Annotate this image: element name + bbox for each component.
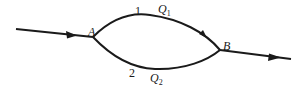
branch-2-flow-label: Q2 xyxy=(150,72,163,87)
flow-subscript: 1 xyxy=(167,9,171,18)
branch-1-flow-label: Q1 xyxy=(158,3,171,18)
branch-2-pipe xyxy=(93,37,220,69)
node-a-label: A xyxy=(88,26,95,38)
branch-1-number: 1 xyxy=(135,5,141,17)
branch-2-number: 2 xyxy=(129,67,135,79)
flow-symbol: Q xyxy=(150,71,159,85)
flow-symbol: Q xyxy=(158,2,167,16)
inflow-line xyxy=(16,29,93,37)
outflow-arrow-icon xyxy=(268,54,281,62)
flow-subscript: 2 xyxy=(159,78,163,87)
branch-1-arrow-icon xyxy=(199,30,207,38)
node-b-label: B xyxy=(223,40,230,52)
